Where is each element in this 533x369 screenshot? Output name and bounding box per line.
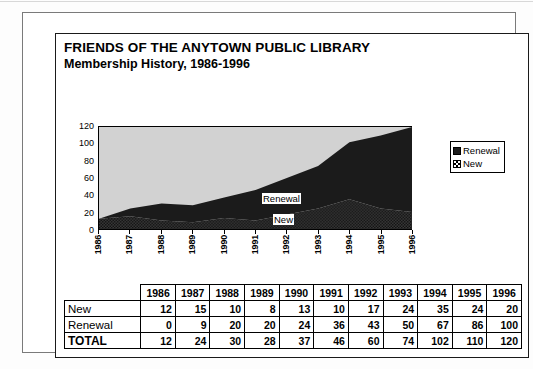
y-tick-label-60: 60 bbox=[84, 174, 94, 183]
table-cell-total-1989: 28 bbox=[245, 333, 280, 349]
report-panel: FRIENDS OF THE ANYTOWN PUBLIC LIBRARY Me… bbox=[55, 33, 529, 358]
x-tick-mark-1988 bbox=[161, 230, 162, 234]
x-tick-label-1995: 1995 bbox=[376, 235, 386, 254]
plot-area bbox=[98, 126, 412, 230]
table-cell-new-1996: 20 bbox=[487, 301, 522, 317]
table-cell-renewal-1993: 50 bbox=[383, 317, 418, 333]
chart-legend: Renewal New bbox=[450, 141, 505, 173]
table-header-1991: 1991 bbox=[314, 285, 349, 301]
table-cell-total-1986: 12 bbox=[141, 333, 176, 349]
table-cell-new-1989: 8 bbox=[245, 301, 280, 317]
table-corner-cell bbox=[65, 285, 141, 301]
x-tick-label-1996: 1996 bbox=[407, 235, 417, 254]
inchart-label-new: New bbox=[273, 214, 294, 225]
x-tick-label-1989: 1989 bbox=[187, 235, 197, 254]
table-cell-total-1994: 102 bbox=[418, 333, 453, 349]
x-axis-ticks bbox=[98, 230, 412, 234]
x-tick-label-1993: 1993 bbox=[313, 235, 323, 254]
table-header-row: 1986198719881989199019911992199319941995… bbox=[65, 285, 522, 301]
table-cell-renewal-1994: 67 bbox=[418, 317, 453, 333]
table-header-1995: 1995 bbox=[452, 285, 487, 301]
document-page: FRIENDS OF THE ANYTOWN PUBLIC LIBRARY Me… bbox=[0, 0, 533, 369]
table-header-1986: 1986 bbox=[141, 285, 176, 301]
legend-label-new: New bbox=[463, 158, 482, 169]
x-tick-mark-1995 bbox=[381, 230, 382, 234]
table-cell-new-1992: 17 bbox=[348, 301, 383, 317]
table-cell-renewal-1995: 86 bbox=[452, 317, 487, 333]
legend-item-new: New bbox=[453, 157, 500, 170]
table-cell-total-1988: 30 bbox=[210, 333, 245, 349]
x-tick-label-1987: 1987 bbox=[124, 235, 134, 254]
table-cell-total-1991: 46 bbox=[314, 333, 349, 349]
table-header-1987: 1987 bbox=[175, 285, 210, 301]
y-axis: 020406080100120 bbox=[64, 126, 94, 230]
scan-artifact-line bbox=[0, 1, 533, 2]
table-header-1992: 1992 bbox=[348, 285, 383, 301]
legend-swatch-new-icon bbox=[453, 160, 461, 168]
x-tick-label-1991: 1991 bbox=[250, 235, 260, 254]
table-header-1993: 1993 bbox=[383, 285, 418, 301]
inchart-label-renewal: Renewal bbox=[262, 193, 301, 204]
table-cell-renewal-1991: 36 bbox=[314, 317, 349, 333]
x-tick-label-1992: 1992 bbox=[281, 235, 291, 254]
table-header-1996: 1996 bbox=[487, 285, 522, 301]
x-tick-label-1994: 1994 bbox=[344, 235, 354, 254]
table-cell-new-1990: 13 bbox=[279, 301, 314, 317]
table-cell-total-1996: 120 bbox=[487, 333, 522, 349]
table-cell-total-1990: 37 bbox=[279, 333, 314, 349]
table-cell-new-1993: 24 bbox=[383, 301, 418, 317]
table-cell-renewal-1996: 100 bbox=[487, 317, 522, 333]
membership-area-chart: 020406080100120 bbox=[64, 86, 522, 266]
x-tick-label-1990: 1990 bbox=[219, 235, 229, 254]
table-cell-new-1995: 24 bbox=[452, 301, 487, 317]
table-header-1988: 1988 bbox=[210, 285, 245, 301]
table-header-1990: 1990 bbox=[279, 285, 314, 301]
x-tick-mark-1986 bbox=[98, 230, 99, 234]
table-cell-renewal-1986: 0 bbox=[141, 317, 176, 333]
legend-swatch-renewal-icon bbox=[453, 147, 461, 155]
table-row: Renewal092020243643506786100 bbox=[65, 317, 522, 333]
table-header-1994: 1994 bbox=[418, 285, 453, 301]
table-cell-renewal-1989: 20 bbox=[245, 317, 280, 333]
table-cell-new-1994: 35 bbox=[418, 301, 453, 317]
table-row: New121510813101724352420 bbox=[65, 301, 522, 317]
x-tick-mark-1987 bbox=[129, 230, 130, 234]
table-cell-renewal-1990: 24 bbox=[279, 317, 314, 333]
table-cell-new-1987: 15 bbox=[175, 301, 210, 317]
x-tick-mark-1989 bbox=[192, 230, 193, 234]
table-cell-renewal-1988: 20 bbox=[210, 317, 245, 333]
x-tick-label-1986: 1986 bbox=[93, 235, 103, 254]
y-tick-label-120: 120 bbox=[79, 122, 94, 131]
table-cell-new-1991: 10 bbox=[314, 301, 349, 317]
x-tick-mark-1996 bbox=[412, 230, 413, 234]
y-tick-label-0: 0 bbox=[89, 226, 94, 235]
table-row-label-renewal: Renewal bbox=[65, 317, 141, 333]
y-tick-label-80: 80 bbox=[84, 156, 94, 165]
data-table-container: 1986198719881989199019911992199319941995… bbox=[64, 284, 522, 349]
report-titles: FRIENDS OF THE ANYTOWN PUBLIC LIBRARY Me… bbox=[64, 39, 504, 73]
table-cell-total-1993: 74 bbox=[383, 333, 418, 349]
x-tick-mark-1991 bbox=[255, 230, 256, 234]
x-tick-label-1988: 1988 bbox=[156, 235, 166, 254]
x-tick-mark-1994 bbox=[349, 230, 350, 234]
x-tick-mark-1990 bbox=[224, 230, 225, 234]
area-series-svg bbox=[99, 127, 412, 229]
x-axis: 1986198719881989199019911992199319941995… bbox=[98, 235, 412, 269]
table-cell-total-1995: 110 bbox=[452, 333, 487, 349]
table-header-1989: 1989 bbox=[245, 285, 280, 301]
table-cell-renewal-1992: 43 bbox=[348, 317, 383, 333]
page-outer-frame: FRIENDS OF THE ANYTOWN PUBLIC LIBRARY Me… bbox=[22, 12, 516, 353]
page-subtitle: Membership History, 1986-1996 bbox=[64, 56, 504, 73]
table-row: TOTAL1224302837466074102110120 bbox=[65, 333, 522, 349]
x-tick-mark-1992 bbox=[286, 230, 287, 234]
x-tick-mark-1993 bbox=[318, 230, 319, 234]
page-title: FRIENDS OF THE ANYTOWN PUBLIC LIBRARY bbox=[64, 39, 504, 56]
legend-label-renewal: Renewal bbox=[463, 145, 500, 156]
table-row-label-total: TOTAL bbox=[65, 333, 141, 349]
table-cell-total-1992: 60 bbox=[348, 333, 383, 349]
membership-data-table: 1986198719881989199019911992199319941995… bbox=[64, 284, 522, 349]
y-tick-label-40: 40 bbox=[84, 191, 94, 200]
table-cell-renewal-1987: 9 bbox=[175, 317, 210, 333]
y-tick-label-100: 100 bbox=[79, 139, 94, 148]
table-cell-new-1986: 12 bbox=[141, 301, 176, 317]
